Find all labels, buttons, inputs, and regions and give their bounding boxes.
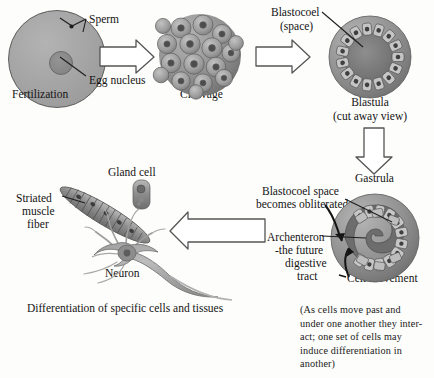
label-striated-line3: fiber (27, 218, 49, 231)
note-line-4: induce differentiation in (300, 344, 434, 358)
note-line-3: act; one set of cells may (300, 330, 434, 344)
note-line-5: another) (300, 357, 434, 371)
stage-sublabel-blastula: (cut away view) (316, 110, 424, 123)
blastula-cutaway (329, 16, 411, 98)
label-blastocoel-obliterated-line2: becomes obliterated (256, 198, 348, 211)
label-gland-cell: Gland cell (108, 166, 156, 179)
label-archenteron-line3: digestive (285, 257, 327, 270)
caption-differentiation: Differentiation of specific cells and ti… (27, 302, 223, 315)
cleavage-morula (153, 14, 243, 99)
stage-label-gastrula: Gastrula (355, 172, 394, 185)
neuron-shape (84, 208, 232, 300)
label-archenteron-line4: tract (297, 270, 317, 283)
label-striated-line1: Striated (16, 192, 52, 205)
stage-label-blastula: Blastula (320, 96, 420, 109)
blastocoel-leader-line (322, 12, 363, 47)
curved-arrow-head-1 (335, 233, 345, 241)
explanatory-note: (As cells move past and under one anothe… (300, 303, 434, 371)
arrow-cleavage-to-blastula (256, 40, 310, 73)
label-egg-nucleus: Egg nucleus (89, 74, 146, 87)
stage-label-cleavage: Cleavage (180, 88, 223, 101)
archenteron-leader (322, 236, 366, 238)
egg-nucleus-shape (49, 51, 73, 75)
striated-muscle-fiber-shape (55, 180, 154, 251)
cell-movement-leader (339, 275, 346, 277)
label-archenteron-line2: -the future (275, 244, 323, 257)
curved-arrow-head-2 (346, 248, 354, 257)
label-archenteron-line1: Archenteron (267, 231, 324, 244)
note-line-1: (As cells move past and (300, 303, 434, 317)
label-blastocoel-obliterated-line1: Blastocoel space (262, 185, 339, 198)
stage-label-fertilization: Fertilization (12, 88, 68, 101)
label-blastocoel-space: (space) (280, 20, 313, 33)
label-blastocoel: Blastocoel (271, 6, 320, 19)
gland-cell-shape (133, 180, 150, 209)
label-striated-line2: muscle (22, 205, 55, 218)
blastocoel-obliterated-leader (345, 199, 392, 222)
arrow-blastula-to-gastrula (356, 128, 392, 174)
label-neuron: Neuron (105, 267, 140, 280)
arrow-fertilization-to-cleavage (100, 40, 154, 73)
label-sperm: Sperm (89, 13, 119, 26)
label-cell-movement: Cell movement (347, 272, 418, 285)
note-line-2: under one another they inter- (300, 317, 434, 331)
arrow-gastrula-to-differentiation (170, 212, 265, 249)
